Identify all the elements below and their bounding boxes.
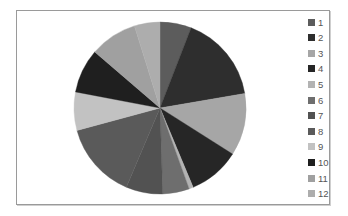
- pie-chart: [0, 0, 348, 216]
- legend-label: 1: [318, 17, 323, 28]
- legend-label: 7: [318, 110, 323, 121]
- legend-swatch: [308, 34, 315, 41]
- legend-label: 3: [318, 48, 323, 59]
- legend-swatch: [308, 50, 315, 57]
- legend-label: 12: [318, 188, 329, 199]
- legend-item: 6: [308, 94, 323, 106]
- legend-item: 8: [308, 125, 323, 137]
- legend-swatch: [308, 143, 315, 150]
- legend-item: 5: [308, 78, 323, 90]
- legend-swatch: [308, 97, 315, 104]
- legend-label: 8: [318, 126, 323, 137]
- legend-item: 12: [308, 188, 329, 200]
- legend-swatch: [308, 175, 315, 182]
- legend-label: 9: [318, 141, 323, 152]
- legend-item: 4: [308, 63, 323, 75]
- legend-item: 9: [308, 141, 323, 153]
- legend-item: 7: [308, 110, 323, 122]
- legend-swatch: [308, 81, 315, 88]
- pie-slices: [74, 22, 246, 194]
- legend-label: 6: [318, 95, 323, 106]
- legend-label: 5: [318, 79, 323, 90]
- legend-swatch: [308, 190, 315, 197]
- legend-label: 11: [318, 173, 328, 184]
- legend-item: 3: [308, 47, 323, 59]
- legend-swatch: [308, 159, 315, 166]
- legend-item: 10: [308, 156, 329, 168]
- legend-item: 11: [308, 172, 328, 184]
- legend-swatch: [308, 19, 315, 26]
- legend-item: 2: [308, 32, 323, 44]
- legend-swatch: [308, 65, 315, 72]
- legend-label: 2: [318, 32, 323, 43]
- legend-swatch: [308, 112, 315, 119]
- legend-item: 1: [308, 16, 323, 28]
- legend-label: 10: [318, 157, 329, 168]
- legend-label: 4: [318, 63, 323, 74]
- legend-swatch: [308, 128, 315, 135]
